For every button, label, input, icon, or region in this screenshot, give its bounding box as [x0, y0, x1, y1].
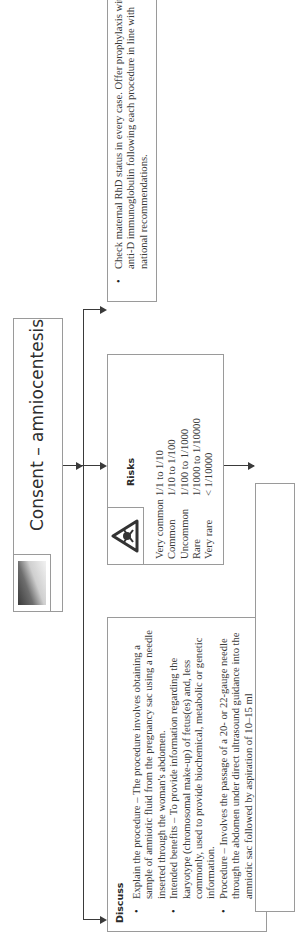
risk-label: Very rare	[203, 496, 215, 559]
arrow-down-icon	[248, 462, 255, 470]
arrow-down-icon	[76, 462, 83, 470]
rhd-item: Check maternal RhD status in every case.…	[113, 0, 150, 269]
discuss-item: Explain the procedure – The procedure in…	[131, 614, 168, 899]
risk-frequency-table: Very common 1/1 to 1/10 Common 1/10 to 1…	[154, 418, 215, 559]
arrow-down-icon	[100, 306, 107, 314]
risks-icon-frame	[107, 507, 144, 565]
risk-value: 1/100 to 1/1000	[179, 418, 191, 496]
risk-label: Very common	[154, 496, 166, 559]
table-row: Very rare < 1/10000	[203, 418, 215, 559]
arrow-down-icon	[100, 916, 107, 924]
rhd-box: Check maternal RhD status in every case.…	[107, 0, 157, 302]
risk-value: 1/1 to 1/10	[154, 418, 166, 496]
risk-label: Common	[166, 496, 178, 559]
next-box	[255, 483, 259, 912]
hazard-warning-icon	[111, 519, 139, 553]
discuss-heading: Discuss	[114, 882, 125, 923]
pregnant-abdomen-photo-icon	[18, 561, 46, 605]
header-box: Consent – amniocentesis	[13, 318, 63, 612]
discuss-box: Discuss Explain the procedure – The proc…	[107, 617, 259, 932]
discuss-item: Intended benefits – To provide informati…	[168, 614, 218, 899]
rhd-list: Check maternal RhD status in every case.…	[113, 0, 150, 283]
risk-value: 1/10 to 1/100	[166, 418, 178, 496]
table-row: Common 1/10 to 1/100	[166, 418, 178, 559]
risk-label: Uncommon	[179, 496, 191, 559]
photo-frame	[13, 554, 51, 612]
connector-trunk	[83, 310, 84, 920]
risk-value: < 1/10000	[203, 418, 215, 496]
risks-box: Risks Very common 1/1 to 1/10 Common 1/1…	[107, 354, 224, 565]
risk-value: 1/1000 to 1/10000	[191, 418, 203, 496]
page-title: Consent – amniocentesis	[27, 319, 47, 531]
table-row: Very common 1/1 to 1/10	[154, 418, 166, 559]
table-row: Uncommon 1/100 to 1/1000	[179, 418, 191, 559]
flowchart-page: Consent – amniocentesis Discuss Explain …	[0, 0, 259, 932]
risk-label: Rare	[191, 496, 203, 559]
discuss-item: Procedure – Involves the passage of a 20…	[218, 614, 255, 899]
discuss-list: Explain the procedure – The procedure in…	[131, 614, 255, 913]
risks-heading: Risks	[125, 458, 136, 486]
table-row: Rare 1/1000 to 1/10000	[191, 418, 203, 559]
arrow-down-icon	[100, 462, 107, 470]
